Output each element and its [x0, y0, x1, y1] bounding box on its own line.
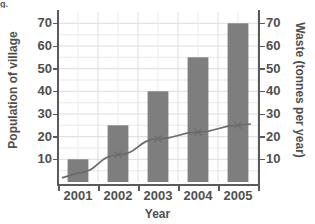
y-axis-left-tickmark	[53, 159, 58, 161]
y-axis-left-tickmark	[53, 23, 58, 25]
y-axis-left-title: Population of village	[6, 15, 20, 165]
y-axis-right-tick-label: 50	[266, 62, 292, 75]
y-axis-left-tickmark	[53, 46, 58, 48]
x-axis-tick-label: 2001	[56, 189, 100, 203]
y-axis-left-tickmark	[53, 136, 58, 138]
x-axis-tickmark	[178, 186, 180, 191]
y-axis-right-tickmark	[260, 23, 265, 25]
y-axis-left-tick-label: 20	[26, 130, 52, 143]
y-axis-left-tick-label: 40	[26, 84, 52, 97]
x-axis-tickmark	[58, 186, 60, 191]
x-axis-tick-label: 2002	[96, 189, 140, 203]
y-axis-right-title: Waste (tonnes per year)	[293, 5, 307, 175]
y-axis-left-tickmark	[53, 114, 58, 116]
y-axis-left-tick-label: 70	[26, 16, 52, 29]
x-axis-line	[57, 184, 260, 186]
trend-line	[62, 124, 251, 178]
chart-figure: g. 10203040506070 10203040506070 2001200…	[0, 0, 315, 224]
x-axis-title: Year	[0, 207, 315, 221]
x-axis-tickmark	[98, 186, 100, 191]
y-axis-right-tickmark	[260, 68, 265, 70]
y-axis-left-tickmark	[53, 68, 58, 70]
y-axis-left-tickmark	[53, 91, 58, 93]
y-axis-right-tick-label: 70	[266, 16, 292, 29]
y-axis-left-tick-label: 30	[26, 107, 52, 120]
y-axis-left-tick-label: 10	[26, 152, 52, 165]
y-axis-right-tickmark	[260, 46, 265, 48]
y-axis-right-tickmark	[260, 114, 265, 116]
x-axis-tickmark	[258, 186, 260, 191]
x-axis-tick-label: 2003	[136, 189, 180, 203]
y-axis-right-tick-label: 40	[266, 84, 292, 97]
y-axis-right-tick-label: 10	[266, 152, 292, 165]
x-axis-tick-label: 2005	[216, 189, 260, 203]
x-axis-tickmark	[218, 186, 220, 191]
x-axis-tickmark	[138, 186, 140, 191]
y-axis-right-tickmark	[260, 91, 265, 93]
y-axis-right-tick-label: 30	[266, 107, 292, 120]
y-axis-right-tickmark	[260, 159, 265, 161]
line-series	[58, 12, 258, 182]
x-axis-tick-label: 2004	[176, 189, 220, 203]
y-axis-right-tickmark	[260, 136, 265, 138]
figure-corner-mark: g.	[0, 0, 8, 8]
y-axis-right-tick-label: 60	[266, 39, 292, 52]
y-axis-left-tick-label: 50	[26, 62, 52, 75]
y-axis-left-tick-label: 60	[26, 39, 52, 52]
y-axis-right-tick-label: 20	[266, 130, 292, 143]
